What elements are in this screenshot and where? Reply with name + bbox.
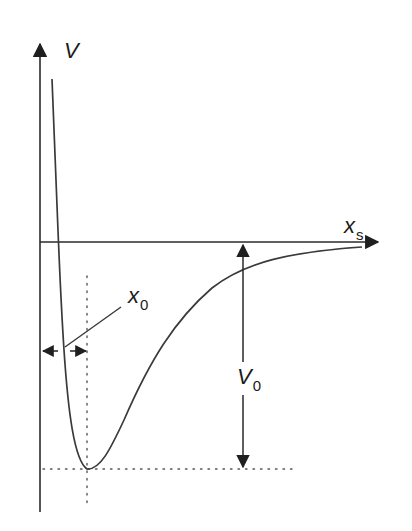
v0-label-main: V [237,364,252,389]
x0-label: x0 [128,285,148,307]
x-axis-label-main: x [344,213,355,238]
y-axis-label: V [64,40,79,62]
x0-label-main: x [128,283,139,308]
y-axis-label-main: V [64,38,79,63]
x-axis-label: xs [344,215,364,237]
x0-label-sub: 0 [140,296,148,313]
v0-label-sub: 0 [253,377,261,394]
potential-energy-diagram [0,0,412,531]
x-axis-label-sub: s [356,226,364,243]
potential-curve [52,79,362,469]
v0-label: V0 [237,366,261,388]
x0-dimension [43,307,121,351]
x0-leader-line [65,307,121,347]
